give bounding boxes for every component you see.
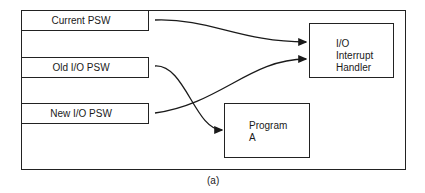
arrow-new-to-handler (155, 59, 306, 113)
arrows-layer (0, 0, 425, 193)
figure-caption: (a) (207, 175, 219, 186)
arrow-current-to-handler (155, 20, 306, 42)
arrow-old-to-program (155, 66, 222, 130)
